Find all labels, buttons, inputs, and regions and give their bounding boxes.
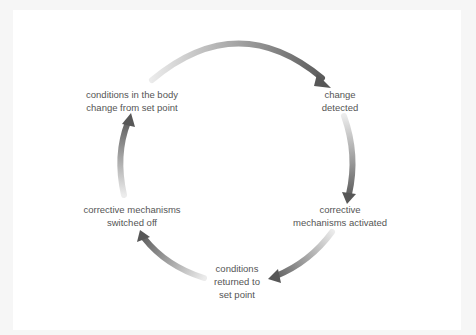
node-line: conditions in the body — [86, 88, 178, 101]
node-conditions-change: conditions in the body change from set p… — [86, 88, 178, 114]
node-conditions-returned: conditions returned to set point — [214, 262, 260, 301]
node-change-detected: change detected — [322, 88, 358, 114]
arrow-change-detected-to-mechanisms-activated — [342, 116, 356, 204]
arrow-mechanisms-off-to-conditions-change — [120, 113, 135, 195]
node-line: corrective — [293, 203, 387, 216]
node-line: detected — [322, 101, 358, 114]
node-line: corrective mechanisms — [83, 203, 180, 216]
node-line: switched off — [83, 216, 180, 229]
node-line: returned to — [214, 275, 260, 288]
node-line: set point — [214, 288, 260, 301]
node-line: change — [322, 88, 358, 101]
node-corrective-mechanisms-off: corrective mechanisms switched off — [83, 203, 180, 229]
arrow-conditions-returned-to-mechanisms-off — [137, 230, 204, 278]
node-line: conditions — [214, 262, 260, 275]
arrowhead-icon — [268, 269, 281, 283]
node-corrective-mechanisms-activated: corrective mechanisms activated — [293, 203, 387, 229]
arrow-mechanisms-activated-to-conditions-returned — [268, 232, 332, 283]
arrow-conditions-change-to-change-detected — [152, 43, 331, 88]
node-line: change from set point — [86, 101, 178, 114]
node-line: mechanisms activated — [293, 216, 387, 229]
